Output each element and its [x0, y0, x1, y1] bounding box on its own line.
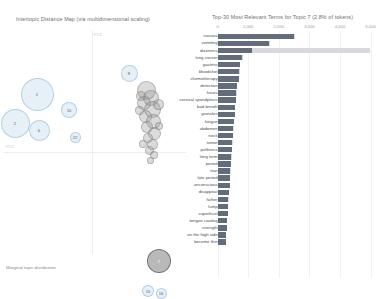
- term-bar-row[interactable]: dizziness: [195, 47, 376, 54]
- topic-cluster-dot[interactable]: [139, 140, 147, 148]
- top-terms-bar-chart: 01,0002,0003,0004,0005,000 nauseavomitin…: [195, 24, 376, 282]
- term-label[interactable]: tear: [210, 168, 217, 174]
- term-bar-row[interactable]: abdomen: [195, 125, 376, 132]
- topic-frequency-bar: [218, 190, 229, 195]
- term-label[interactable]: lung cancer: [195, 55, 217, 61]
- term-bar-row[interactable]: strength: [195, 225, 376, 232]
- term-bar-row[interactable]: on the high side: [195, 232, 376, 239]
- term-bar-row[interactable]: hours: [195, 90, 376, 97]
- term-label[interactable]: period: [206, 161, 218, 167]
- term-bar-row[interactable]: bloodshot: [195, 68, 376, 75]
- term-bar-row[interactable]: superficial: [195, 210, 376, 217]
- term-bar-track: [218, 62, 371, 67]
- term-label[interactable]: strength: [202, 225, 218, 231]
- term-bar-row[interactable]: fatigue: [195, 118, 376, 125]
- term-bar-row[interactable]: tumor: [195, 139, 376, 146]
- term-bar-row[interactable]: chemotherapy: [195, 76, 376, 83]
- term-label[interactable]: late period: [198, 175, 218, 181]
- term-bar-track: [218, 105, 371, 110]
- term-bar-track: [218, 90, 371, 95]
- x-axis-tick-label: 2,000: [274, 24, 284, 29]
- term-bar-track: [218, 83, 371, 88]
- topic-cluster-dot[interactable]: [135, 106, 144, 115]
- x-axis-tick-label: 0: [216, 24, 218, 29]
- term-label[interactable]: detection: [200, 83, 217, 89]
- topic-frequency-bar: [218, 34, 295, 39]
- topic-cluster-dot[interactable]: [147, 157, 154, 164]
- term-bar-row[interactable]: tear: [195, 168, 376, 175]
- term-bar-track: [218, 225, 371, 230]
- topic-bubble-label: 6: [38, 128, 40, 133]
- term-bar-row[interactable]: puffiness: [195, 147, 376, 154]
- term-label[interactable]: vomiting: [202, 40, 218, 46]
- term-label[interactable]: become thin: [194, 239, 217, 245]
- term-label[interactable]: lump: [208, 204, 217, 210]
- term-label[interactable]: hours: [207, 90, 218, 96]
- term-label[interactable]: puffiness: [200, 147, 217, 153]
- term-bar-row[interactable]: period: [195, 161, 376, 168]
- term-bar-row[interactable]: become thin: [195, 239, 376, 246]
- term-bar-track: [218, 112, 371, 117]
- term-label[interactable]: unconscious: [194, 182, 218, 188]
- term-bar-row[interactable]: tongue coating: [195, 217, 376, 224]
- topic-cluster-dot[interactable]: [136, 91, 146, 101]
- term-label[interactable]: on the high side: [187, 232, 217, 238]
- term-bar-list[interactable]: nauseavomitingdizzinesslung cancergastri…: [195, 33, 376, 246]
- term-label[interactable]: neck: [209, 133, 218, 139]
- term-bar-row[interactable]: vomiting: [195, 40, 376, 47]
- x-axis-tick-label: 3,000: [304, 24, 314, 29]
- term-label[interactable]: superficial: [198, 211, 217, 217]
- term-label[interactable]: tongue coating: [189, 218, 217, 224]
- term-bar-row[interactable]: disappear: [195, 189, 376, 196]
- term-bar-row[interactable]: father: [195, 196, 376, 203]
- term-label[interactable]: abdomen: [200, 126, 218, 132]
- term-label[interactable]: granules: [201, 111, 217, 117]
- term-bar-track: [218, 190, 371, 195]
- intertopic-distance-map[interactable]: PC1 PC2 1268102271516: [0, 26, 190, 284]
- marginal-topic-distribution-legend: Marginal topic distribution: [6, 265, 56, 270]
- topic-cluster-dot[interactable]: [155, 122, 163, 130]
- term-label[interactable]: nausea: [204, 33, 218, 39]
- term-bar-track: [218, 119, 371, 124]
- topic-frequency-bar: [218, 105, 236, 110]
- term-bar-row[interactable]: late period: [195, 175, 376, 182]
- term-bar-row[interactable]: unconscious: [195, 182, 376, 189]
- topic-bubble-label: 2: [14, 121, 16, 126]
- topic-bubble-label: 15: [146, 289, 151, 294]
- term-label[interactable]: dizziness: [200, 48, 218, 54]
- term-label[interactable]: long term: [200, 154, 218, 160]
- term-bar-row[interactable]: neck: [195, 132, 376, 139]
- term-label[interactable]: disappear: [199, 189, 218, 195]
- term-bar-row[interactable]: nausea: [195, 33, 376, 40]
- term-bar-track: [218, 175, 371, 180]
- intertopic-map-title: Intertopic Distance Map (via multidimens…: [16, 16, 150, 22]
- term-bar-track: [218, 154, 371, 159]
- term-bar-row[interactable]: gastritis: [195, 61, 376, 68]
- term-label[interactable]: tumor: [207, 140, 218, 146]
- topic-frequency-bar: [218, 126, 234, 131]
- term-label[interactable]: fatigue: [205, 119, 218, 125]
- term-bar-row[interactable]: long term: [195, 154, 376, 161]
- term-bar-row[interactable]: detection: [195, 83, 376, 90]
- term-label[interactable]: chemotherapy: [190, 76, 217, 82]
- term-label[interactable]: gastritis: [203, 62, 218, 68]
- topic-frequency-bar: [218, 204, 228, 209]
- term-bar-row[interactable]: cervical spondylosis: [195, 97, 376, 104]
- term-label[interactable]: bad breath: [197, 104, 218, 110]
- topic-frequency-bar: [218, 97, 236, 102]
- topic-frequency-bar: [218, 62, 240, 67]
- topic-cluster-dot[interactable]: [153, 99, 164, 110]
- term-bar-track: [218, 218, 371, 223]
- term-label[interactable]: father: [207, 197, 218, 203]
- term-label[interactable]: cervical spondylosis: [179, 97, 217, 103]
- topic-frequency-bar: [218, 183, 230, 188]
- term-bar-track: [218, 161, 371, 166]
- term-bar-row[interactable]: granules: [195, 111, 376, 118]
- term-label[interactable]: bloodshot: [199, 69, 218, 75]
- topic-frequency-bar: [218, 239, 226, 244]
- topic-bubble-label: 1: [36, 92, 38, 97]
- term-bar-row[interactable]: lung cancer: [195, 54, 376, 61]
- term-bar-row[interactable]: bad breath: [195, 104, 376, 111]
- term-bar-track: [218, 232, 371, 237]
- term-bar-row[interactable]: lump: [195, 203, 376, 210]
